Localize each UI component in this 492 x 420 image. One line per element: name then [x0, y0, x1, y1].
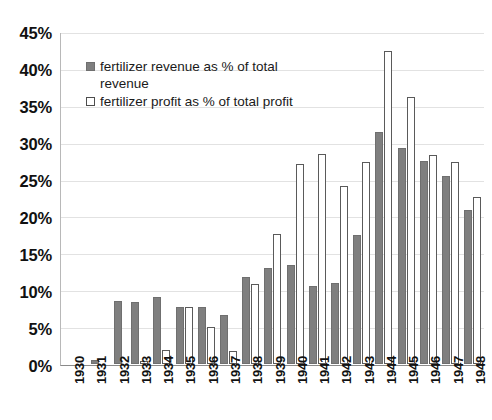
x-axis-tick-label: 1948: [473, 356, 488, 384]
bar-revenue-1936: [198, 307, 206, 364]
bar-profit-1946: [429, 155, 437, 364]
x-axis-tick: 1946: [417, 368, 439, 420]
x-axis-tick: 1930: [61, 368, 83, 420]
legend-label-profit: fertilizer profit as % of total profit: [100, 93, 293, 110]
bar-revenue-1940: [287, 265, 295, 364]
y-axis-tick-label: 40%: [20, 60, 52, 79]
y-axis-tick-label: 10%: [20, 283, 52, 302]
bar-revenue-1941: [309, 286, 317, 364]
bar-revenue-1947: [442, 176, 450, 364]
bar-revenue-1942: [331, 283, 339, 364]
bar-revenue-1948: [464, 210, 472, 364]
bar-revenue-1932: [114, 301, 122, 364]
bar-profit-1941: [318, 154, 326, 364]
legend-item-profit: fertilizer profit as % of total profit: [86, 93, 316, 110]
y-axis-labels: 45%40%35%30%25%20%15%10%5%0%: [0, 33, 52, 366]
bar-revenue-1943: [353, 235, 361, 364]
y-axis-tick-label: 35%: [20, 97, 52, 116]
x-axis-tick: 1936: [195, 368, 217, 420]
bar-revenue-1945: [398, 148, 406, 364]
bar-revenue-1934: [153, 297, 161, 364]
x-axis-tick: 1939: [261, 368, 283, 420]
legend-swatch-revenue-icon: [86, 62, 95, 71]
bar-revenue-1938: [242, 277, 250, 364]
x-axis-tick: 1933: [128, 368, 150, 420]
bar-chart: 45%40%35%30%25%20%15%10%5%0% 19301931193…: [0, 0, 492, 420]
bar-revenue-1939: [264, 268, 272, 364]
x-axis-tick: 1940: [284, 368, 306, 420]
x-axis-tick: 1943: [350, 368, 372, 420]
bar-revenue-1944: [375, 132, 383, 364]
y-axis-tick-label: 20%: [20, 209, 52, 228]
bar-group: [351, 33, 373, 364]
bar-profit-1943: [362, 162, 370, 364]
bar-revenue-1933: [131, 302, 139, 364]
y-axis-tick-label: 30%: [20, 135, 52, 154]
y-axis-tick-label: 15%: [20, 246, 52, 265]
x-axis-tick: 1934: [150, 368, 172, 420]
x-axis-tick: 1944: [373, 368, 395, 420]
bar-profit-1944: [384, 51, 392, 364]
x-axis-tick: 1941: [306, 368, 328, 420]
bar-profit-1947: [451, 162, 459, 364]
x-axis-tick: 1931: [83, 368, 105, 420]
bar-group: [328, 33, 350, 364]
bar-profit-1945: [407, 97, 415, 364]
bar-group: [62, 33, 84, 364]
bar-revenue-1937: [220, 315, 228, 364]
bar-profit-1938: [251, 284, 259, 364]
x-axis-tick: 1948: [462, 368, 484, 420]
x-axis-tick: 1945: [395, 368, 417, 420]
legend-item-revenue: fertilizer revenue as % of total revenue: [86, 58, 316, 92]
bar-profit-1939: [273, 234, 281, 364]
chart-legend: fertilizer revenue as % of total revenue…: [86, 58, 316, 111]
y-axis-tick-label: 0%: [29, 357, 52, 376]
x-axis-tick: 1937: [217, 368, 239, 420]
y-axis-tick-label: 5%: [29, 319, 52, 338]
bar-profit-1942: [340, 186, 348, 364]
bar-group: [462, 33, 484, 364]
x-axis-tick: 1947: [440, 368, 462, 420]
legend-label-revenue: fertilizer revenue as % of total revenue: [100, 58, 305, 92]
x-axis-tick: 1938: [239, 368, 261, 420]
legend-swatch-profit-icon: [86, 97, 95, 106]
x-axis-tick: 1935: [172, 368, 194, 420]
bar-group: [373, 33, 395, 364]
y-axis-tick-label: 45%: [20, 24, 52, 43]
x-axis-tick: 1942: [328, 368, 350, 420]
bar-profit-1940: [296, 164, 304, 364]
bar-group: [395, 33, 417, 364]
bar-profit-1948: [473, 197, 481, 364]
bar-revenue-1946: [420, 161, 428, 364]
x-axis-labels: 1930193119321933193419351936193719381939…: [61, 368, 484, 420]
bar-group: [417, 33, 439, 364]
bar-group: [439, 33, 461, 364]
x-axis-tick: 1932: [106, 368, 128, 420]
y-axis-tick-label: 25%: [20, 171, 52, 190]
